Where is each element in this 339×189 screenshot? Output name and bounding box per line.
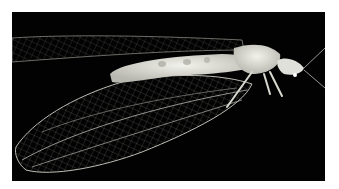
lacewing-photo — [12, 12, 325, 181]
antennae — [304, 48, 325, 88]
lower-wing — [15, 75, 252, 172]
lacewing-illustration — [12, 12, 325, 181]
